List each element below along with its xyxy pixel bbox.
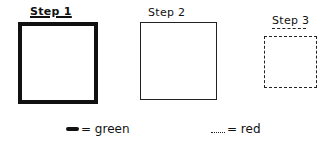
dashed-line-swatch-icon bbox=[211, 132, 225, 133]
thick-line-swatch-icon bbox=[66, 127, 79, 131]
step-2-label: Step 2 bbox=[148, 6, 185, 19]
step-3-label: Step 3 bbox=[272, 14, 309, 27]
step-2-thin-square bbox=[140, 22, 217, 100]
step-3-dashed-square bbox=[264, 36, 317, 88]
legend-green-text: = green bbox=[81, 122, 130, 136]
step-1-thick-square bbox=[18, 22, 98, 104]
step-3-dashed-underline bbox=[272, 28, 306, 29]
legend-red: = red bbox=[211, 122, 261, 136]
legend-red-text: = red bbox=[227, 122, 261, 136]
legend-green: = green bbox=[66, 122, 130, 136]
step-1-label: Step 1 bbox=[30, 5, 72, 18]
